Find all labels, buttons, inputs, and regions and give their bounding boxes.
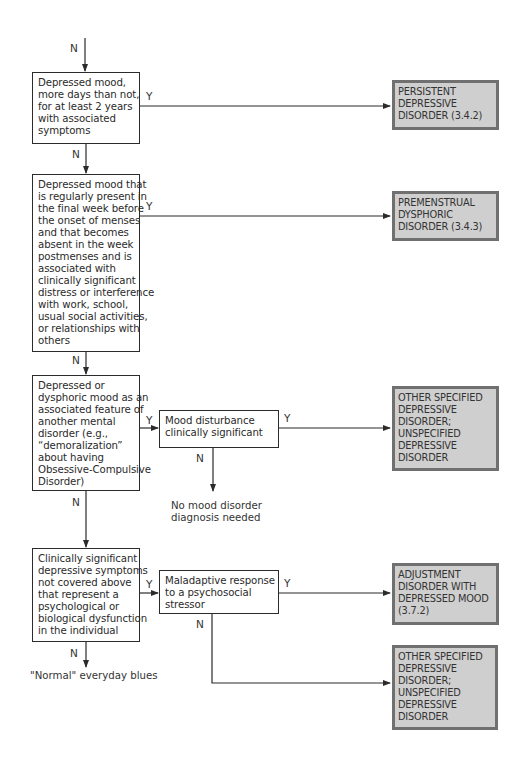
result-other-specified-depressive-1: OTHER SPECIFIED DEPRESSIVE DISORDER; UNS… [392, 386, 499, 471]
decision-text: Mood disturbance [165, 415, 274, 427]
decision-text: or relationships with [38, 323, 135, 335]
no-label: N [70, 647, 78, 659]
decision-text: clinically significant [165, 427, 274, 439]
decision-text: for at least 2 years [38, 101, 135, 113]
decision-text: symptoms [38, 125, 135, 137]
note-text: No mood disorder [171, 500, 262, 512]
decision-text: Disorder) [38, 476, 135, 488]
decision-text: the final week before [38, 203, 135, 215]
result-text: (3.7.2) [398, 605, 492, 617]
result-text: DYSPHORIC [398, 209, 492, 221]
result-other-specified-depressive-2: OTHER SPECIFIED DEPRESSIVE DISORDER; UNS… [392, 645, 498, 730]
result-text: DISORDER; [398, 675, 491, 687]
decision-mood-disturbance: Mood disturbance clinically significant [159, 410, 279, 448]
decision-text: that represent a [38, 589, 135, 601]
result-text: DISORDER (3.4.3) [398, 221, 492, 233]
result-text: DEPRESSIVE [398, 440, 492, 452]
decision-text: not covered above [38, 577, 135, 589]
decision-text: Depressed mood, [38, 77, 135, 89]
result-text: DEPRESSED MOOD [398, 593, 492, 605]
no-label: N [196, 452, 204, 464]
result-persistent-depressive-disorder: PERSISTENT DEPRESSIVE DISORDER (3.4.2) [392, 80, 499, 130]
decision-text: biological dysfunction [38, 613, 135, 625]
result-text: OTHER SPECIFIED [398, 651, 491, 663]
result-text: PREMENSTRUAL [398, 197, 492, 209]
decision-text: clinically significant [38, 275, 135, 287]
result-text: DISORDER WITH [398, 581, 492, 593]
decision-text: “demoralization” [38, 440, 135, 452]
yes-label: Y [146, 578, 152, 590]
decision-premenstrual-mood: Depressed mood that is regularly present… [32, 174, 140, 352]
decision-text: to a psychosocial [165, 587, 274, 599]
decision-text: associated with [38, 263, 135, 275]
decision-text: the onset of menses [38, 215, 135, 227]
decision-text: postmenses and is [38, 251, 135, 263]
decision-text: depressive symptoms [38, 565, 135, 577]
result-text: DISORDER (3.4.2) [398, 110, 492, 122]
entry-no-label: N [70, 42, 78, 54]
decision-text: another mental [38, 416, 135, 428]
yes-label: Y [146, 200, 152, 212]
result-text: PERSISTENT [398, 86, 492, 98]
decision-text: associated feature of [38, 404, 135, 416]
result-text: DEPRESSIVE [398, 699, 491, 711]
result-text: ADJUSTMENT [398, 569, 492, 581]
decision-text: is regularly present in [38, 191, 135, 203]
result-premenstrual-dysphoric-disorder: PREMENSTRUAL DYSPHORIC DISORDER (3.4.3) [392, 191, 499, 241]
decision-text: distress or interference [38, 287, 135, 299]
no-label: N [72, 496, 80, 508]
decision-text: with associated [38, 113, 135, 125]
decision-text: Maladaptive response [165, 575, 274, 587]
decision-text: in the individual [38, 625, 135, 637]
result-text: DISORDER [398, 452, 492, 464]
decision-text: dysphoric mood as an [38, 392, 135, 404]
decision-text: Depressed or [38, 380, 135, 392]
note-text: diagnosis needed [171, 512, 262, 524]
decision-clinically-significant: Clinically significant depressive sympto… [32, 548, 140, 642]
decision-associated-feature: Depressed or dysphoric mood as an associ… [32, 375, 140, 491]
decision-text: Clinically significant [38, 553, 135, 565]
result-adjustment-disorder: ADJUSTMENT DISORDER WITH DEPRESSED MOOD … [392, 563, 499, 625]
no-label: N [72, 354, 80, 366]
no-mood-disorder-note: No mood disorder diagnosis needed [171, 500, 262, 524]
decision-text: usual social activities, [38, 311, 135, 323]
yes-label: Y [284, 577, 290, 589]
result-text: UNSPECIFIED [398, 687, 491, 699]
decision-text: absent in the week [38, 239, 135, 251]
decision-text: and that becomes [38, 227, 135, 239]
decision-text: Obsessive-Compulsive [38, 464, 135, 476]
result-text: OTHER SPECIFIED [398, 392, 492, 404]
decision-text: disorder (e.g., [38, 428, 135, 440]
result-text: DISORDER [398, 711, 491, 723]
no-label: N [196, 618, 204, 630]
no-label: N [72, 148, 80, 160]
result-text: DEPRESSIVE [398, 663, 491, 675]
result-text: UNSPECIFIED [398, 428, 492, 440]
decision-text: with work, school, [38, 299, 135, 311]
decision-text: stressor [165, 599, 274, 611]
decision-text: more days than not, [38, 89, 135, 101]
decision-text: others [38, 335, 135, 347]
result-text: DEPRESSIVE [398, 404, 492, 416]
decision-text: psychological or [38, 601, 135, 613]
decision-text: Depressed mood that [38, 179, 135, 191]
normal-everyday-blues-note: "Normal" everyday blues [30, 670, 158, 682]
yes-label: Y [146, 90, 152, 102]
result-text: DEPRESSIVE [398, 98, 492, 110]
decision-persistent-mood: Depressed mood, more days than not, for … [32, 72, 140, 144]
decision-text: about having [38, 452, 135, 464]
decision-maladaptive-response: Maladaptive response to a psychosocial s… [159, 570, 279, 614]
result-text: DISORDER; [398, 416, 492, 428]
yes-label: Y [146, 414, 152, 426]
yes-label: Y [284, 412, 290, 424]
